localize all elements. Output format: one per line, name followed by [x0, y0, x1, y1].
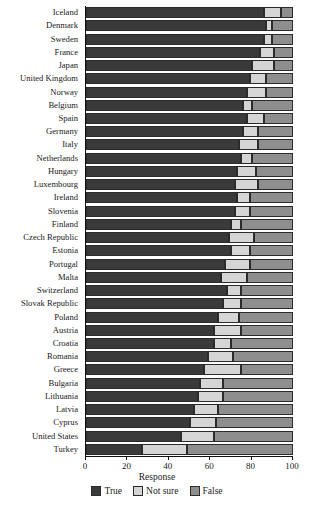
bar-segment-false	[250, 192, 293, 203]
stacked-bar	[86, 298, 293, 309]
bar-row	[86, 179, 293, 190]
bar-segment-false	[214, 431, 293, 442]
category-label: Luxembourg	[34, 179, 78, 190]
category-label: Cyprus	[53, 417, 78, 428]
bar-segment-true	[86, 232, 229, 243]
bar-segment-true	[86, 219, 231, 230]
bar-segment-notsure	[227, 285, 241, 296]
stacked-bar	[86, 338, 293, 349]
bar-segment-notsure	[200, 378, 223, 389]
x-axis-tick	[85, 456, 86, 460]
stacked-bar	[86, 285, 293, 296]
legend-item: Not sure	[133, 486, 178, 496]
bar-segment-false	[241, 298, 293, 309]
bar-segment-notsure	[247, 113, 264, 124]
category-label: Iceland	[53, 7, 78, 18]
bar-segment-false	[252, 153, 293, 164]
bar-segment-notsure	[221, 272, 248, 283]
category-label: Croatia	[53, 338, 78, 349]
bar-row	[86, 272, 293, 283]
bar-segment-false	[187, 444, 293, 455]
category-label: Turkey	[53, 444, 78, 455]
bar-row	[86, 378, 293, 389]
bar-row	[86, 325, 293, 336]
stacked-bar	[86, 60, 293, 71]
bar-segment-false	[266, 87, 293, 98]
bar-row	[86, 73, 293, 84]
plot-area	[85, 6, 293, 456]
bar-row	[86, 100, 293, 111]
x-axis-tick	[126, 456, 127, 460]
stacked-bar	[86, 325, 293, 336]
stacked-bar	[86, 100, 293, 111]
category-label: Switzerland	[37, 285, 78, 296]
bar-row	[86, 34, 293, 45]
bar-segment-false	[216, 417, 293, 428]
category-label: Latvia	[56, 404, 78, 415]
bar-segment-true	[86, 34, 264, 45]
bar-row	[86, 206, 293, 217]
bar-segment-notsure	[223, 298, 242, 309]
bar-segment-false	[223, 378, 293, 389]
bar-segment-false	[250, 245, 293, 256]
bar-segment-true	[86, 285, 227, 296]
bar-segment-false	[274, 47, 293, 58]
bar-segment-true	[86, 272, 221, 283]
bar-row	[86, 166, 293, 177]
bar-segment-notsure	[208, 351, 233, 362]
bar-segment-true	[86, 298, 223, 309]
bar-segment-false	[256, 166, 293, 177]
stacked-bar	[86, 206, 293, 217]
bar-segment-notsure	[243, 126, 257, 137]
legend-label: Not sure	[146, 486, 178, 496]
bar-segment-false	[239, 312, 293, 323]
stacked-bar	[86, 391, 293, 402]
bar-row	[86, 87, 293, 98]
stacked-bar	[86, 192, 293, 203]
bar-row	[86, 431, 293, 442]
bar-segment-false	[241, 219, 293, 230]
bar-segment-true	[86, 166, 237, 177]
bar-segment-false	[264, 113, 293, 124]
bar-row	[86, 338, 293, 349]
bar-segment-true	[86, 139, 239, 150]
bar-segment-notsure	[229, 232, 254, 243]
stacked-bar	[86, 166, 293, 177]
bar-segment-notsure	[239, 139, 258, 150]
x-axis-tick-label: 20	[122, 461, 131, 471]
x-axis-tick	[251, 456, 252, 460]
category-label: Romania	[47, 351, 78, 362]
bar-segment-true	[86, 364, 204, 375]
stacked-bar-chart: IcelandDenmarkSwedenFranceJapanUnited Ki…	[0, 0, 314, 506]
bar-segment-false	[252, 100, 293, 111]
bar-row	[86, 7, 293, 18]
bar-row	[86, 113, 293, 124]
bar-segment-false	[258, 126, 293, 137]
bar-segment-true	[86, 325, 214, 336]
bar-segment-notsure	[250, 73, 267, 84]
x-axis-tick-label: 40	[163, 461, 172, 471]
bar-segment-false	[281, 7, 293, 18]
category-label: Bulgaria	[48, 378, 78, 389]
bar-segment-true	[86, 153, 241, 164]
bar-segment-notsure	[243, 100, 251, 111]
stacked-bar	[86, 259, 293, 270]
category-label: Malta	[58, 272, 78, 283]
bar-segment-false	[247, 272, 293, 283]
bar-row	[86, 126, 293, 137]
bar-segment-false	[241, 325, 293, 336]
bar-segment-true	[86, 20, 266, 31]
bar-segment-false	[258, 179, 293, 190]
x-axis-tick	[168, 456, 169, 460]
category-label: Belgium	[48, 100, 78, 111]
stacked-bar	[86, 73, 293, 84]
stacked-bar	[86, 47, 293, 58]
bar-segment-true	[86, 338, 214, 349]
category-label: Greece	[54, 364, 78, 375]
x-axis-tick-label: 60	[205, 461, 214, 471]
bar-row	[86, 232, 293, 243]
legend-label: True	[104, 486, 122, 496]
bar-segment-false	[272, 34, 293, 45]
bar-row	[86, 312, 293, 323]
x-axis-title: Response	[0, 472, 314, 482]
